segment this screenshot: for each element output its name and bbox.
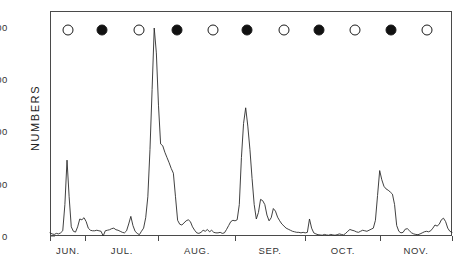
x-tick-label-month: SEP. [258,245,281,256]
x-tick-mark [305,236,306,241]
x-tick-label-month: JUL. [111,245,133,256]
x-tick-mark [158,236,159,241]
y-axis-title: NUMBERS [29,58,41,178]
moon-phase-new-icon [350,25,361,36]
x-tick-mark [380,236,381,241]
x-tick-mark [235,236,236,241]
moon-phase-full-icon [386,25,397,36]
moon-phase-full-icon [172,25,183,36]
moon-phase-new-icon [422,25,433,36]
x-tick-label-month: NOV. [403,245,428,256]
y-tick-label: 600 [0,74,8,85]
chart-page: NUMBERS 0200400600800 JUN.JUL.AUG.SEP.OC… [0,0,466,265]
y-tick-label: 400 [0,126,8,137]
plot-area [50,11,452,236]
moon-phase-new-icon [134,25,145,36]
moon-phase-full-icon [314,25,325,36]
x-tick-label-month: AUG. [184,245,210,256]
y-tick-label: 200 [0,178,8,189]
x-tick-label-month: JUN. [56,245,80,256]
moon-phase-new-icon [279,25,290,36]
x-tick-mark [50,236,51,241]
moon-phase-full-icon [97,25,108,36]
x-tick-label-month: OCT. [331,245,355,256]
y-tick-label: 800 [0,21,8,32]
moon-phase-new-icon [208,25,219,36]
moon-phase-new-icon [63,25,74,36]
x-tick-mark [452,236,453,241]
y-tick-label: 0 [2,231,8,242]
x-tick-mark [85,236,86,241]
moon-phase-full-icon [242,25,253,36]
